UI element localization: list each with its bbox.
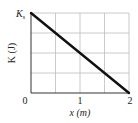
x-tick-0: 0 <box>23 95 28 106</box>
x-tick-2: 2 <box>128 95 133 106</box>
y-tick-ks: Ks <box>15 8 26 20</box>
x-axis-label: x (m) <box>69 107 91 119</box>
x-tick-1: 1 <box>78 95 83 106</box>
kinetic-energy-chart: Ks K (J) 0 1 2 x (m) <box>0 0 138 123</box>
y-axis-label: K (J) <box>6 43 18 63</box>
